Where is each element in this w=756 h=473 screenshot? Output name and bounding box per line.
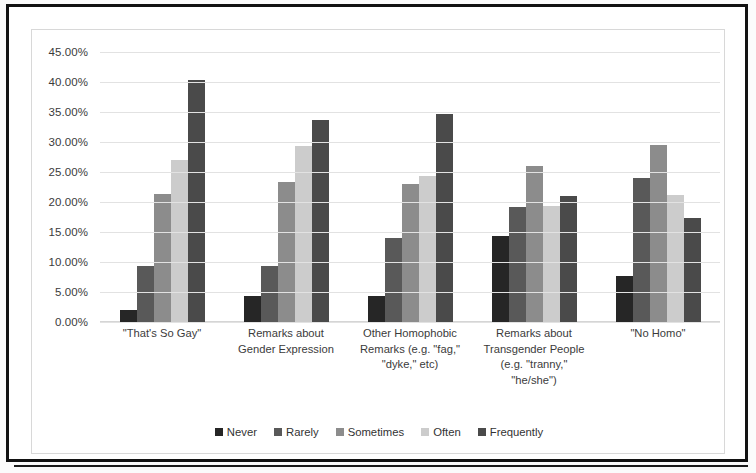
y-axis-tick-label: 15.00%: [48, 226, 88, 238]
category-label-line: Remarks about: [473, 326, 595, 342]
gridline: [100, 262, 720, 263]
bar-rarely[interactable]: [137, 266, 154, 322]
category-label-line: Remarks about: [225, 326, 347, 342]
gridline: [100, 322, 720, 323]
bar-frequently[interactable]: [684, 218, 701, 322]
y-axis-tick-label: 0.00%: [55, 316, 88, 328]
bar-never[interactable]: [244, 296, 261, 322]
legend-label: Often: [433, 426, 461, 438]
bar-group: [596, 52, 720, 322]
bar-frequently[interactable]: [560, 196, 577, 322]
bar-rarely[interactable]: [385, 238, 402, 322]
bar-rarely[interactable]: [633, 178, 650, 322]
legend-swatch-icon: [421, 428, 429, 436]
bar-never[interactable]: [616, 276, 633, 322]
category-label-line: Remarks (e.g. "fag,": [349, 342, 471, 358]
category-label: Other HomophobicRemarks (e.g. "fag,""dyk…: [348, 326, 472, 426]
bar-rarely[interactable]: [261, 266, 278, 322]
bar-group: [224, 52, 348, 322]
legend-swatch-icon: [478, 428, 486, 436]
bar-never[interactable]: [120, 310, 137, 322]
legend-item-frequently[interactable]: Frequently: [478, 426, 543, 438]
gridline: [100, 292, 720, 293]
bar-groups: [100, 52, 720, 322]
category-label-line: Gender Expression: [225, 342, 347, 358]
y-axis-tick-label: 45.00%: [48, 46, 88, 58]
gridline: [100, 52, 720, 53]
chart-legend: NeverRarelySometimesOftenFrequently: [32, 426, 726, 438]
category-label-line: (e.g. "tranny,": [473, 357, 595, 373]
y-axis-tick-label: 5.00%: [55, 286, 88, 298]
bar-sometimes[interactable]: [526, 166, 543, 322]
gridline: [100, 112, 720, 113]
y-axis-tick-label: 30.00%: [48, 136, 88, 148]
y-axis-tick-label: 25.00%: [48, 166, 88, 178]
legend-swatch-icon: [274, 428, 282, 436]
y-axis-tick-label: 40.00%: [48, 76, 88, 88]
category-label: "That's So Gay": [100, 326, 224, 426]
chart-plot-wrapper: 45.00%40.00%35.00%30.00%25.00%20.00%15.0…: [32, 30, 726, 455]
legend-item-never[interactable]: Never: [215, 426, 257, 438]
bar-sometimes[interactable]: [154, 194, 171, 322]
legend-item-rarely[interactable]: Rarely: [274, 426, 319, 438]
legend-swatch-icon: [215, 428, 223, 436]
bar-rarely[interactable]: [509, 207, 526, 322]
bar-sometimes[interactable]: [402, 184, 419, 322]
legend-swatch-icon: [336, 428, 344, 436]
category-label-line: Other Homophobic: [349, 326, 471, 342]
category-label-line: Transgender People: [473, 342, 595, 358]
y-axis-tick-label: 20.00%: [48, 196, 88, 208]
screenshot-page: 45.00%40.00%35.00%30.00%25.00%20.00%15.0…: [0, 0, 756, 473]
category-label: Remarks aboutTransgender People(e.g. "tr…: [472, 326, 596, 426]
chart-container: 45.00%40.00%35.00%30.00%25.00%20.00%15.0…: [31, 29, 725, 454]
y-axis-tick-label: 10.00%: [48, 256, 88, 268]
legend-label: Rarely: [286, 426, 319, 438]
bar-group: [472, 52, 596, 322]
x-axis-category-labels: "That's So Gay"Remarks aboutGender Expre…: [100, 326, 720, 426]
category-label-line: "No Homo": [597, 326, 719, 342]
document-frame: 45.00%40.00%35.00%30.00%25.00%20.00%15.0…: [6, 4, 748, 462]
legend-item-often[interactable]: Often: [421, 426, 461, 438]
bar-often[interactable]: [171, 160, 188, 322]
gridline: [100, 202, 720, 203]
gridline: [100, 232, 720, 233]
page-bottom-rule: [14, 465, 748, 467]
bar-never[interactable]: [368, 296, 385, 322]
bar-group: [100, 52, 224, 322]
y-axis-tick-label: 35.00%: [48, 106, 88, 118]
bar-often[interactable]: [667, 195, 684, 322]
y-axis-labels: 45.00%40.00%35.00%30.00%25.00%20.00%15.0…: [32, 30, 94, 455]
gridline: [100, 82, 720, 83]
category-label-line: "That's So Gay": [101, 326, 223, 342]
plot-area: [100, 52, 720, 322]
bar-often[interactable]: [419, 176, 436, 322]
gridline: [100, 142, 720, 143]
category-label-line: "dyke," etc): [349, 357, 471, 373]
bar-never[interactable]: [492, 236, 509, 322]
bar-often[interactable]: [543, 206, 560, 322]
category-label: Remarks aboutGender Expression: [224, 326, 348, 426]
legend-label: Sometimes: [348, 426, 405, 438]
bar-frequently[interactable]: [188, 80, 205, 322]
category-label-line: "he/she"): [473, 373, 595, 389]
legend-item-sometimes[interactable]: Sometimes: [336, 426, 405, 438]
bar-frequently[interactable]: [436, 114, 453, 322]
legend-label: Frequently: [490, 426, 543, 438]
category-label: "No Homo": [596, 326, 720, 426]
bar-group: [348, 52, 472, 322]
legend-label: Never: [227, 426, 257, 438]
gridline: [100, 172, 720, 173]
